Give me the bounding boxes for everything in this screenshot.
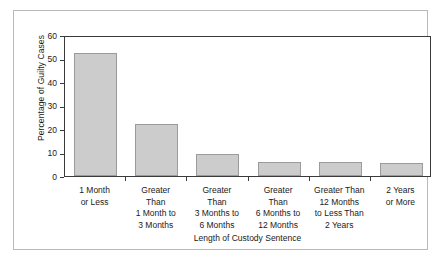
x-axis-category-label-line: or Less (64, 197, 125, 209)
x-axis-tick-mark (186, 177, 187, 181)
x-axis-category-label: GreaterThan1 Month to3 Months (125, 185, 186, 231)
y-axis-tick-label: 10 (31, 148, 57, 158)
x-axis-category-label-line: 3 Months to (186, 208, 247, 220)
figure-border: Percentage of Guilty Cases 0102030405060… (13, 10, 428, 250)
y-axis-tick-label: 50 (31, 54, 57, 64)
x-axis-category-label-line: Than (186, 197, 247, 209)
y-axis-tick-mark (60, 177, 64, 178)
x-axis-category-label: GreaterThan3 Months to6 Months (186, 185, 247, 231)
bar (196, 154, 239, 176)
x-axis-category-label-line: Than (248, 197, 309, 209)
x-axis-tick-mark (370, 177, 371, 181)
x-axis-category-label: Greater Than12 Monthsto Less Than2 Years (309, 185, 370, 231)
y-axis-tick-label: 30 (31, 101, 57, 111)
bar (319, 162, 362, 176)
y-axis-tick-label: 20 (31, 125, 57, 135)
x-axis-category-label-line: 1 Month to (125, 208, 186, 220)
x-axis-category-label-line: 12 Months (309, 197, 370, 209)
x-axis-category-label-line: Greater (125, 185, 186, 197)
bar (135, 124, 178, 176)
bar (258, 162, 301, 176)
y-axis-tick-label: 0 (31, 172, 57, 182)
x-axis-category-label-line: 6 Months (186, 220, 247, 232)
x-axis-tick-mark (125, 177, 126, 181)
x-axis-category-label-line: Greater (248, 185, 309, 197)
bar (380, 163, 423, 176)
x-axis-category-label: 1 Monthor Less (64, 185, 125, 208)
x-axis-category-label-line: 1 Month (64, 185, 125, 197)
x-axis-category-label-line: Greater (186, 185, 247, 197)
bar (74, 53, 117, 176)
x-axis-category-label-line: or More (370, 197, 431, 209)
y-axis-tick-label: 40 (31, 78, 57, 88)
x-axis-tick-mark (309, 177, 310, 181)
x-axis-category-label-line: 2 Years (309, 220, 370, 232)
x-axis-category-label-line: Than (125, 197, 186, 209)
x-axis-category-label: GreaterThan6 Months to12 Months (248, 185, 309, 231)
x-axis-tick-mark (248, 177, 249, 181)
x-axis-category-label-line: to Less Than (309, 208, 370, 220)
plot-area (64, 36, 431, 177)
x-axis-category-label-line: 6 Months to (248, 208, 309, 220)
x-axis-title: Length of Custody Sentence (64, 233, 431, 243)
x-axis-category-label-line: 2 Years (370, 185, 431, 197)
figure: Percentage of Guilty Cases 0102030405060… (0, 0, 441, 264)
x-axis-category-label-line: 3 Months (125, 220, 186, 232)
y-axis-tick-label: 60 (31, 31, 57, 41)
x-axis-category-label: 2 Yearsor More (370, 185, 431, 208)
x-axis-category-label-line: Greater Than (309, 185, 370, 197)
x-axis-category-label-line: 12 Months (248, 220, 309, 232)
